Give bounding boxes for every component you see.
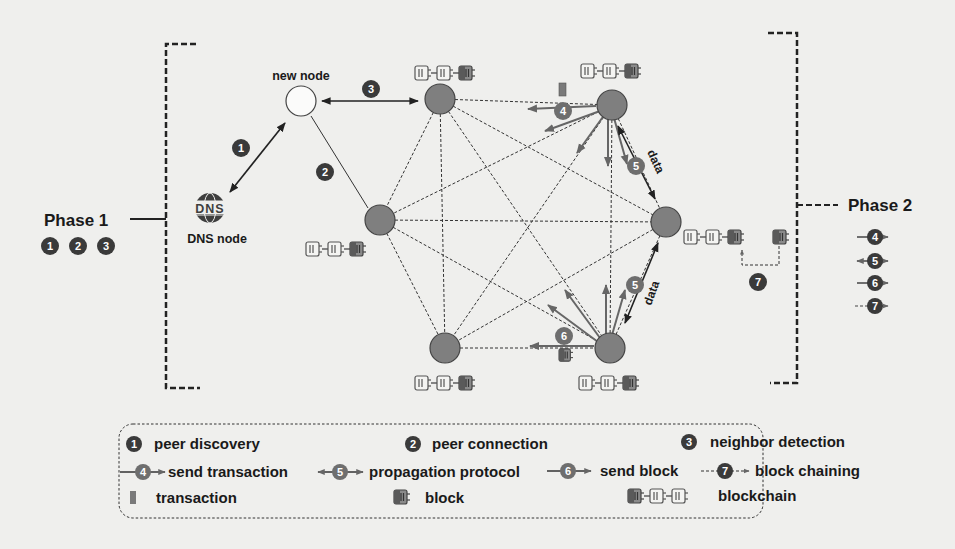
badge-2: 2 — [75, 240, 81, 252]
svg-text:7: 7 — [722, 465, 728, 477]
phase1-label: Phase 1 — [44, 211, 108, 230]
svg-text:DNS: DNS — [195, 202, 224, 216]
legend-blockchain-icon — [628, 489, 688, 503]
step-badge-1: 1 — [232, 139, 250, 157]
peer-node-top-right — [597, 90, 627, 120]
svg-text:3: 3 — [368, 83, 374, 95]
step-badge-6: 6 — [555, 327, 573, 345]
legend: 1 peer discovery 2 peer connection 3 nei… — [119, 424, 860, 518]
new-node-label: new node — [272, 69, 330, 83]
svg-text:1: 1 — [238, 142, 244, 154]
blockchain-icon-bottom-left — [415, 376, 475, 390]
block-icon — [559, 349, 573, 361]
new-block-icon — [773, 230, 789, 244]
svg-text:2: 2 — [322, 166, 328, 178]
phase2-bracket — [768, 33, 838, 383]
svg-text:5: 5 — [632, 279, 638, 291]
legend-block-chaining: block chaining — [755, 462, 860, 479]
step-badge-5-upper: 5 — [627, 157, 645, 175]
badge-5: 5 — [872, 255, 878, 267]
svg-text:5: 5 — [337, 466, 343, 478]
legend-peer-connection: peer connection — [432, 435, 548, 452]
blockchain-icon-left — [306, 242, 366, 256]
dns-node-icon: DNS — [192, 193, 228, 223]
svg-text:6: 6 — [565, 465, 571, 477]
peer-node-top-left — [425, 84, 455, 114]
legend-propagation-protocol: propagation protocol — [369, 463, 520, 480]
step-badge-2: 2 — [316, 163, 334, 181]
legend-block-icon — [394, 490, 410, 504]
blockchain-icon-bottom-right — [579, 376, 639, 390]
transaction-icon — [559, 83, 566, 96]
legend-block: block — [425, 489, 465, 506]
data-label-lower: data — [641, 279, 663, 307]
badge-1: 1 — [47, 240, 53, 252]
step-badge-4: 4 — [554, 102, 572, 120]
phase2-badges: 4 5 6 7 — [855, 229, 888, 314]
peer-discovery-arrow — [230, 123, 285, 192]
data-label-upper: data — [644, 147, 667, 176]
peer-node-bottom-right — [595, 333, 625, 363]
svg-text:2: 2 — [410, 438, 416, 450]
legend-neighbor-detection: neighbor detection — [710, 433, 845, 450]
phase1-bracket — [130, 44, 200, 388]
blockchain-icon-right — [684, 230, 744, 244]
svg-text:4: 4 — [140, 466, 147, 478]
peer-node-bottom-left — [430, 333, 460, 363]
svg-text:1: 1 — [131, 438, 137, 450]
step-badge-7: 7 — [749, 273, 767, 291]
blockchain-icon-top-left — [415, 66, 475, 80]
dns-node-label: DNS node — [187, 232, 247, 246]
legend-peer-discovery: peer discovery — [154, 435, 261, 452]
badge-6: 6 — [872, 277, 878, 289]
legend-send-transaction: send transaction — [168, 463, 288, 480]
peer-node-left — [365, 205, 395, 235]
new-node — [286, 86, 316, 116]
badge-3: 3 — [103, 240, 109, 252]
block-chaining-link — [742, 246, 779, 265]
step-badge-3: 3 — [362, 80, 380, 98]
svg-text:6: 6 — [561, 330, 567, 342]
legend-transaction: transaction — [156, 489, 237, 506]
badge-4: 4 — [872, 231, 879, 243]
svg-text:7: 7 — [755, 276, 761, 288]
phase1-badges: 1 2 3 — [41, 237, 115, 255]
peer-connection-line — [311, 116, 368, 208]
legend-blockchain: blockchain — [718, 487, 796, 504]
legend-transaction-icon — [130, 491, 136, 504]
peer-node-right — [651, 207, 681, 237]
badge-7: 7 — [872, 300, 878, 312]
step-badge-5-lower: 5 — [626, 276, 644, 294]
svg-text:3: 3 — [686, 436, 692, 448]
svg-text:4: 4 — [560, 105, 567, 117]
phase2-label: Phase 2 — [848, 196, 912, 215]
blockchain-icon-top-right — [581, 64, 641, 78]
legend-send-block: send block — [600, 462, 679, 479]
blockchain-network-diagram: Phase 1 1 2 3 Phase 2 4 5 6 7 — [0, 0, 955, 549]
svg-text:5: 5 — [633, 160, 639, 172]
